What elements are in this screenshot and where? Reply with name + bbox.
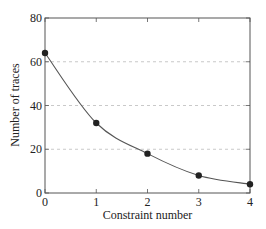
data-points <box>42 50 253 188</box>
y-tick-label: 60 <box>30 55 42 69</box>
data-point <box>247 181 253 187</box>
x-tick-label: 2 <box>145 195 151 209</box>
data-point <box>144 150 150 156</box>
gridlines <box>45 62 250 150</box>
y-tick-label: 0 <box>36 186 42 200</box>
data-point <box>196 172 202 178</box>
x-tick-labels: 01234 <box>42 195 253 209</box>
y-axis-label: Number of traces <box>8 63 22 147</box>
y-tick-label: 20 <box>30 142 42 156</box>
data-point <box>93 120 99 126</box>
x-tick-label: 0 <box>42 195 48 209</box>
y-tick-label: 80 <box>30 11 42 25</box>
y-tick-label: 40 <box>30 99 42 113</box>
x-tick-label: 4 <box>247 195 253 209</box>
y-tick-labels: 020406080 <box>30 11 42 200</box>
data-curve <box>45 53 250 184</box>
line-chart: 01234 020406080 Constraint number Number… <box>0 0 266 229</box>
x-tick-label: 1 <box>93 195 99 209</box>
data-point <box>42 50 48 56</box>
x-tick-label: 3 <box>196 195 202 209</box>
x-axis-label: Constraint number <box>103 208 193 222</box>
